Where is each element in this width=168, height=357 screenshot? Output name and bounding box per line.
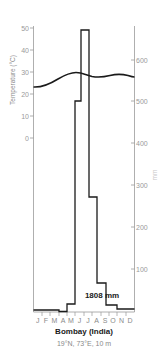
month-label: F	[44, 317, 48, 324]
month-label: M	[68, 317, 74, 324]
station-coordinates: 19°N, 73°E, 10 m	[0, 340, 168, 347]
station-name: Bombay (India)	[0, 327, 168, 336]
month-label: J	[36, 317, 40, 324]
left-ticks: 50 40 30 20 10 0	[21, 25, 33, 142]
total-precipitation: 1808 mm	[85, 291, 119, 300]
left-tick-10: 10	[21, 113, 29, 120]
right-tick-300: 300	[136, 182, 148, 189]
month-label: S	[103, 317, 108, 324]
left-axis-title: Temperature (°C)	[9, 55, 17, 105]
month-label: A	[61, 317, 66, 324]
month-label: A	[94, 317, 99, 324]
month-label: N	[119, 317, 124, 324]
temperature-line	[34, 73, 135, 88]
left-tick-30: 30	[21, 69, 29, 76]
month-label: J	[86, 317, 90, 324]
left-tick-50: 50	[21, 25, 29, 32]
right-tick-100: 100	[136, 266, 148, 273]
right-ticks: 600 500 400 300 200 100	[131, 57, 148, 273]
month-labels: J F M A M J J A S O N D	[36, 317, 133, 324]
left-tick-0: 0	[25, 135, 29, 142]
month-label: M	[52, 317, 58, 324]
right-tick-500: 500	[136, 98, 148, 105]
right-axis-title: mm	[151, 170, 158, 181]
month-label: D	[127, 317, 132, 324]
left-tick-40: 40	[21, 47, 29, 54]
right-tick-600: 600	[136, 57, 148, 64]
precipitation-bars	[34, 30, 135, 312]
left-tick-20: 20	[21, 91, 29, 98]
month-label: O	[110, 317, 116, 324]
month-ticks	[42, 312, 126, 316]
month-label: J	[78, 317, 82, 324]
climate-chart: 50 40 30 20 10 0 Temperature (°C) 600 50…	[0, 0, 168, 357]
right-tick-200: 200	[136, 224, 148, 231]
right-tick-400: 400	[136, 140, 148, 147]
